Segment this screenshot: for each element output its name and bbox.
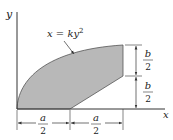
curve-leader bbox=[64, 41, 74, 54]
dim-a-mid-den: 2 bbox=[93, 126, 99, 136]
dim-a-left-num: a bbox=[40, 112, 46, 123]
diagram-svg: y x x = ky2 b 2 b 2 a 2 a bbox=[0, 0, 173, 140]
dim-b-top-num: b bbox=[145, 48, 151, 59]
dim-b-top-den: 2 bbox=[145, 62, 151, 72]
y-axis-label: y bbox=[5, 8, 13, 21]
dim-a-left-den: 2 bbox=[40, 126, 46, 136]
dim-b-bottom-num: b bbox=[145, 80, 151, 91]
curve-label: x = ky2 bbox=[47, 27, 84, 39]
x-axis-label: x bbox=[163, 109, 169, 120]
dim-b-bottom-den: 2 bbox=[145, 94, 151, 104]
dim-a-mid-num: a bbox=[93, 112, 99, 123]
diagram-canvas: y x x = ky2 b 2 b 2 a 2 a bbox=[0, 0, 173, 140]
shaded-area bbox=[17, 45, 123, 109]
